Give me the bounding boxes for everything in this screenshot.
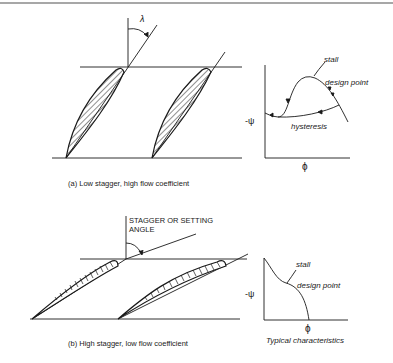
lambda-arrowhead	[144, 32, 148, 37]
chart-a-y-label: -ψ	[245, 116, 254, 126]
chart-b-design-point-label: design point	[297, 281, 341, 290]
chart-a-x-label: ϕ	[302, 161, 308, 172]
panel-a-cascade	[52, 18, 242, 158]
chart-a-design-point-label: design point	[325, 78, 369, 87]
blade-b1	[32, 261, 118, 319]
chord-line-b2	[118, 254, 248, 319]
blade-a1	[66, 68, 124, 158]
arrow-a3	[331, 93, 334, 96]
chart-a-hysteresis-label: hysteresis	[291, 122, 327, 131]
blade-b2	[118, 261, 226, 319]
stagger-label-line1: STAGGER OR SETTING	[129, 216, 213, 225]
chart-a	[265, 62, 350, 158]
chart-a-stall-label: stall	[324, 55, 338, 64]
caption-a: (a) Low stagger, high flow coefficient	[68, 179, 190, 188]
stall-pointer-b	[287, 270, 296, 283]
chart-b-caption: Typical characteristics	[266, 336, 344, 345]
blade-a2	[152, 68, 211, 158]
arrow-a5	[270, 113, 273, 117]
chart-b-y-label: -ψ	[245, 289, 254, 299]
lambda-arc	[128, 29, 147, 36]
chart-b-x-label: ϕ	[305, 323, 311, 334]
stagger-label-line2: ANGLE	[129, 225, 154, 234]
arrow-a4	[318, 110, 322, 114]
figure-canvas: λ stall design point hysteresis -ψ ϕ (a)…	[0, 0, 393, 363]
stall-pointer-a	[314, 62, 325, 76]
arrow-a1	[286, 99, 290, 103]
stagger-angle-arc	[126, 243, 141, 253]
lambda-symbol: λ	[139, 14, 144, 24]
chart-b-stall-label: stall	[296, 260, 310, 269]
caption-b: (b) High stagger, low flow coefficient	[68, 339, 189, 348]
